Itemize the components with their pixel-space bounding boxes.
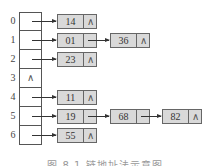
- bucket-slot-3: ∧: [19, 69, 42, 88]
- chain-node: 14 ∧: [57, 14, 97, 29]
- arrow-icon: [32, 40, 56, 41]
- arrow-icon: [32, 135, 56, 136]
- node-key: 14: [58, 15, 84, 28]
- arrow-icon: [88, 40, 109, 41]
- arrow-icon: [32, 59, 56, 60]
- null-pointer-icon: ∧: [84, 53, 96, 66]
- chain-node: 55 ∧: [57, 128, 97, 143]
- chain-node: 11 ∧: [57, 90, 97, 105]
- node-key: 19: [58, 110, 84, 123]
- chain-node: 36 ∧: [110, 33, 150, 48]
- index-label-5: 5: [9, 110, 17, 121]
- null-pointer-icon: ∧: [84, 15, 96, 28]
- null-pointer-icon: ∧: [20, 72, 41, 83]
- chain-node: 82 ∧: [162, 109, 202, 124]
- node-key: 55: [58, 129, 84, 142]
- node-key: 82: [163, 110, 189, 123]
- figure-caption: 图 8.1 链地址法示意图: [40, 157, 170, 166]
- index-label-1: 1: [9, 34, 17, 45]
- null-pointer-icon: ∧: [84, 91, 96, 104]
- arrow-icon: [32, 21, 56, 22]
- index-label-3: 3: [9, 72, 17, 83]
- arrow-icon: [88, 116, 109, 117]
- index-label-2: 2: [9, 53, 17, 64]
- node-key: 01: [58, 34, 84, 47]
- node-key: 36: [111, 34, 137, 47]
- node-key: 11: [58, 91, 84, 104]
- null-pointer-icon: ∧: [84, 129, 96, 142]
- arrow-icon: [32, 97, 56, 98]
- arrow-icon: [141, 116, 161, 117]
- null-pointer-icon: ∧: [189, 110, 201, 123]
- node-key: 68: [111, 110, 137, 123]
- chain-node: 23 ∧: [57, 52, 97, 67]
- index-label-0: 0: [9, 15, 17, 26]
- index-label-4: 4: [9, 91, 17, 102]
- node-key: 23: [58, 53, 84, 66]
- arrow-icon: [32, 116, 56, 117]
- null-pointer-icon: ∧: [137, 34, 149, 47]
- index-label-6: 6: [9, 129, 17, 140]
